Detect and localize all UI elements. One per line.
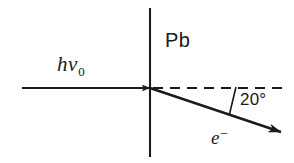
material-label: Pb bbox=[165, 30, 190, 50]
photon-label: hν0 bbox=[57, 54, 85, 78]
electron-label: e− bbox=[211, 127, 228, 147]
physics-diagram: hν0 Pb 20° e− bbox=[0, 0, 294, 163]
photon-subscript: 0 bbox=[78, 64, 85, 79]
angle-tick-mark bbox=[230, 87, 237, 114]
electron-symbol: e bbox=[211, 127, 219, 148]
electron-superscript: − bbox=[220, 126, 228, 141]
angle-label: 20° bbox=[240, 91, 266, 108]
diagram-canvas bbox=[0, 0, 294, 163]
photon-symbol: hν bbox=[57, 52, 78, 76]
